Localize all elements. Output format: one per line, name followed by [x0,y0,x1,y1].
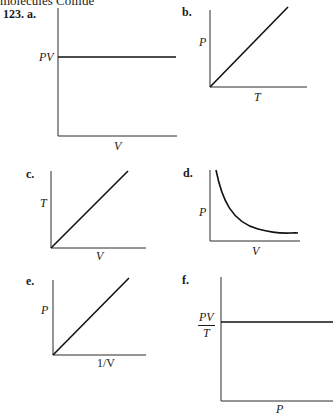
panel-d-label: d. [183,166,193,181]
panel-f-label: f. [182,273,189,288]
panel-c-axes [51,171,146,248]
panel-d-ylabel: P [199,205,206,220]
panel-e-ylabel: P [41,303,48,318]
panel-a-ylabel: PV [39,50,54,65]
panel-f-ylabel-numerator: PV [198,311,215,326]
panel-d-xlabel: V [252,244,259,259]
panel-e-curve [53,278,129,355]
panel-f-ylabel-denominator: T [203,326,210,340]
panel-b-ylabel: P [199,35,206,50]
panel-b-curve [210,7,288,87]
panel-b-xlabel: T [254,90,261,105]
panel-d-curve [216,170,298,233]
panel-f-xlabel: P [276,402,283,413]
panel-c-ylabel: T [40,196,47,211]
panel-d-axes [210,170,300,241]
panel-c-label: c. [26,167,34,182]
panel-a-axes [58,8,177,136]
panel-e-xlabel: 1/V [97,356,115,371]
panel-b-label: b. [182,5,192,20]
panel-a-xlabel: V [114,139,121,154]
panel-c-xlabel: V [96,249,103,264]
panel-f-ylabel: PV T [198,307,215,340]
panel-b-axes [210,10,307,87]
panel-f-axes [221,277,333,401]
panel-e-label: e. [26,274,34,289]
panel-e-axes [53,280,146,355]
panel-c-curve [51,171,128,248]
